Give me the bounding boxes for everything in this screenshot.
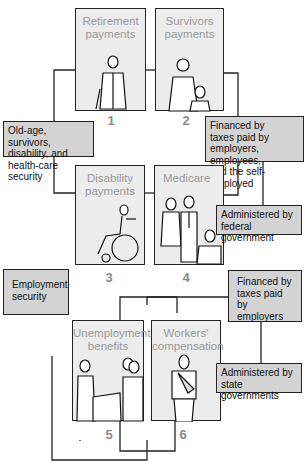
nurse-and-patients-icon [155,166,225,266]
note-line: taxes paid by [210,132,299,144]
panel-workers-compensation: Workers' compensation [151,320,221,421]
note-line: taxes paid by [237,288,293,311]
panel-number: 1 [101,113,121,128]
note-line: disability, and [8,148,89,160]
panel-unemployment-benefits: Unemployment benefits [72,320,144,421]
note-line: security [12,291,60,303]
note-social-security-financing: Financed by taxes paid by employers, emp… [205,116,304,162]
panel-number: 3 [99,270,119,285]
note-line: Financed by [210,120,299,132]
wheelchair-icon [76,166,146,266]
panel-retirement-payments: Retirement payments [75,8,146,111]
note-social-security-administration: Administered by federal government [216,205,302,235]
note-line: federal government [221,221,297,244]
note-employment-purpose: Employment security [3,269,69,315]
note-line: state governments [221,379,297,402]
panel-number: 6 [173,427,193,442]
note-line: employers [237,311,293,323]
panel-number: 5 [99,427,119,442]
panel-medicare: Medicare [154,165,224,265]
note-line: employers, employees, [210,143,299,166]
elderly-man-icon [76,9,147,112]
note-social-security-purpose: Old-age, survivors, disability, and heal… [3,121,94,157]
people-at-counter-icon [73,321,145,422]
note-line: Financed by [237,276,293,288]
social-insurance-diagram: Retirement payments 1 Survivors payments [0,0,305,464]
note-line: Administered by [221,209,297,221]
panel-number: 2 [176,113,196,128]
panel-disability-payments: Disability payments [75,165,145,265]
note-employment-administration: Administered by state governments [216,363,302,393]
panel-survivors-payments: Survivors payments [155,8,224,111]
note-line: Administered by [221,367,297,379]
man-with-arm-sling-icon [152,321,222,422]
panel-number: 4 [176,270,196,285]
mother-and-child-icon [156,9,225,112]
note-employment-financing: Financed by taxes paid by employers [228,270,302,322]
note-line: Employment [12,279,60,291]
note-line: Old-age, survivors, [8,125,89,148]
